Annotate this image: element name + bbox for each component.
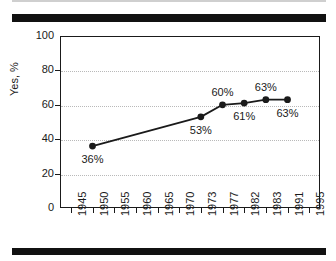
data-point-1982 [241, 100, 248, 107]
x-tick-mark-1982 [244, 208, 245, 213]
bottom-black-rule [12, 248, 326, 255]
data-point-1950 [89, 143, 96, 150]
y-tick-label-0: 0 [48, 202, 54, 213]
x-tick-mark-1973 [201, 208, 202, 213]
data-series-line [60, 36, 320, 208]
point-label-1977: 60% [212, 87, 234, 98]
chart-figure: Yes, % 020406080100 19451950195519601965… [0, 0, 336, 261]
y-tick-label-40: 40 [42, 133, 54, 144]
x-tick-mark-1983 [266, 208, 267, 213]
data-point-1973 [197, 113, 204, 120]
y-tick-label-80: 80 [42, 64, 54, 75]
point-label-1991: 63% [277, 108, 299, 119]
point-label-1983: 63% [255, 82, 277, 93]
x-tick-mark-1950 [93, 208, 94, 213]
x-tick-mark-1960 [136, 208, 137, 213]
top-black-rule [12, 14, 326, 22]
x-tick-mark-1965 [158, 208, 159, 213]
x-tick-mark-1977 [223, 208, 224, 213]
x-tick-mark-1991 [288, 208, 289, 213]
x-tick-mark-1995 [309, 208, 310, 213]
y-axis-title: Yes, % [8, 62, 20, 96]
point-label-1982: 61% [233, 111, 255, 122]
top-hairline-rule [12, 0, 326, 2]
x-tick-mark-1970 [179, 208, 180, 213]
point-label-1950: 36% [82, 154, 104, 165]
data-point-1977 [219, 101, 226, 108]
data-point-1983 [262, 96, 269, 103]
point-label-1973: 53% [190, 125, 212, 136]
series-line [93, 100, 288, 146]
y-tick-label-20: 20 [42, 168, 54, 179]
data-point-1991 [284, 96, 291, 103]
y-tick-label-100: 100 [36, 30, 54, 41]
x-tick-mark-1945 [71, 208, 72, 213]
y-tick-label-60: 60 [42, 99, 54, 110]
x-tick-mark-1955 [114, 208, 115, 213]
